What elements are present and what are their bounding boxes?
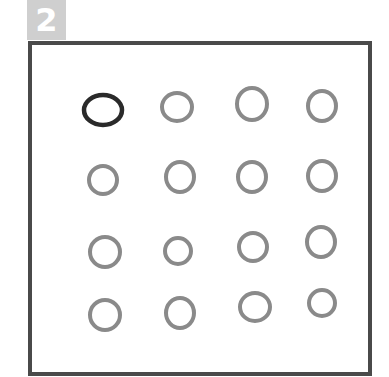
circle xyxy=(162,93,192,121)
circle xyxy=(237,88,267,120)
circle xyxy=(309,290,335,316)
circle xyxy=(308,91,336,121)
circle xyxy=(90,237,120,267)
circle-highlighted xyxy=(84,95,122,125)
circle xyxy=(307,227,335,257)
circle xyxy=(308,161,336,191)
circle xyxy=(89,166,117,194)
circle xyxy=(240,293,270,321)
circle xyxy=(238,162,266,192)
circle xyxy=(90,300,120,330)
circle xyxy=(165,238,191,264)
circle xyxy=(166,162,194,192)
circle xyxy=(166,298,194,328)
circle-grid xyxy=(0,0,389,377)
circle xyxy=(239,233,267,261)
